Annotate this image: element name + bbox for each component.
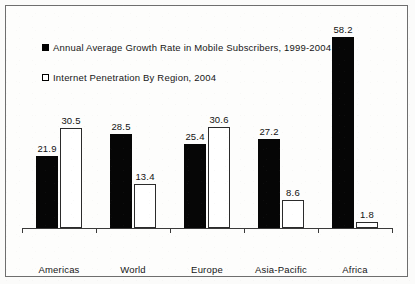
axis-tick bbox=[244, 228, 245, 233]
plot-area: 21.930.528.513.425.430.627.28.658.21.8 A… bbox=[22, 24, 392, 228]
bar bbox=[208, 127, 230, 228]
axis-tick bbox=[392, 228, 393, 233]
bar-value-label: 30.6 bbox=[199, 114, 239, 125]
axis-tick bbox=[22, 228, 23, 233]
bar-group: 21.930.5 bbox=[36, 24, 82, 228]
bar bbox=[282, 200, 304, 228]
bar-group: 25.430.6 bbox=[184, 24, 230, 228]
bar bbox=[258, 139, 280, 228]
bar-group: 27.28.6 bbox=[258, 24, 304, 228]
bar bbox=[184, 144, 206, 228]
axis-tick bbox=[170, 228, 171, 233]
chart-figure: Annual Average Growth Rate in Mobile Sub… bbox=[0, 0, 415, 284]
bar bbox=[356, 222, 378, 228]
bar-value-label: 8.6 bbox=[273, 187, 313, 198]
bar bbox=[36, 156, 58, 228]
bar bbox=[60, 128, 82, 228]
bar-value-label: 13.4 bbox=[125, 171, 165, 182]
bar-value-label: 1.8 bbox=[347, 209, 387, 220]
x-axis-line bbox=[22, 228, 392, 229]
bar-value-label: 30.5 bbox=[51, 115, 91, 126]
bar-value-label: 28.5 bbox=[101, 121, 141, 132]
bar-group: 58.21.8 bbox=[332, 24, 378, 228]
bar-value-label: 58.2 bbox=[323, 24, 363, 35]
bar bbox=[332, 37, 354, 228]
bar bbox=[134, 184, 156, 228]
axis-tick bbox=[96, 228, 97, 233]
bar-value-label: 27.2 bbox=[249, 126, 289, 137]
bar-group: 28.513.4 bbox=[110, 24, 156, 228]
axis-tick bbox=[318, 228, 319, 233]
category-label-africa: Africa bbox=[307, 264, 403, 275]
